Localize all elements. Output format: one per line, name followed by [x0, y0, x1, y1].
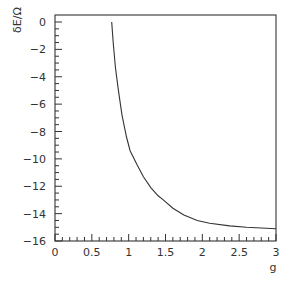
y-tick-label: −16 — [23, 235, 46, 248]
y-axis-tick-labels: 0−2−4−6−8−10−12−14−16 — [23, 16, 46, 248]
x-axis-ticks — [55, 234, 276, 241]
y-tick-label: −14 — [23, 208, 46, 221]
plot-frame — [55, 15, 276, 241]
energy-curve — [112, 22, 276, 229]
plot-border — [55, 15, 276, 241]
y-tick-label: −12 — [23, 180, 46, 193]
y-tick-label: −2 — [30, 43, 46, 56]
x-axis-label: g — [270, 261, 277, 274]
chart-canvas: 00.511.522.53 0−2−4−6−8−10−12−14−16 g δE… — [0, 0, 288, 283]
x-tick-label: 2 — [199, 246, 206, 259]
x-tick-label: 1.5 — [157, 246, 175, 259]
y-tick-label: −8 — [30, 126, 46, 139]
x-axis-tick-labels: 00.511.522.53 — [52, 246, 280, 259]
x-tick-label: 2.5 — [230, 246, 248, 259]
y-tick-label: 0 — [39, 16, 46, 29]
y-tick-label: −10 — [23, 153, 46, 166]
y-axis-ticks — [55, 22, 62, 241]
x-tick-label: 1 — [125, 246, 132, 259]
x-tick-label: 3 — [273, 246, 280, 259]
x-tick-label: 0 — [52, 246, 59, 259]
x-tick-label: 0.5 — [83, 246, 101, 259]
y-axis-label: δE/Ω — [11, 7, 24, 33]
y-tick-label: −6 — [30, 98, 46, 111]
y-tick-label: −4 — [30, 71, 46, 84]
